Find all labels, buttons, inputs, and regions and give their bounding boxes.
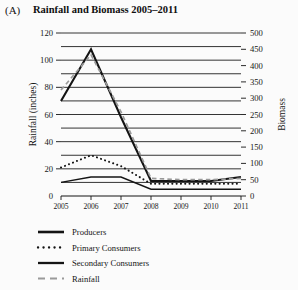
left-tick-label: 40 [44,137,53,147]
x-tick-label: 2008 [143,202,158,211]
x-axis-tick-labels: 2005200620072008200920102011 [53,202,248,211]
right-tick-label: 250 [250,110,263,120]
legend-item: Secondary Consumers [38,258,150,268]
right-tick-label: 350 [250,77,263,87]
right-tick-label: 0 [250,191,254,201]
legend-item: Producers [38,227,107,237]
series-line-producers [61,49,241,181]
legend-item: Rainfall [38,274,100,284]
x-tick-label: 2006 [83,202,98,211]
left-axis-title: Rainfall (inches) [28,83,39,147]
left-axis-tick-labels: 020406080100120 [40,28,53,201]
right-tick-label: 50 [250,175,259,185]
x-tick-label: 2009 [173,202,188,211]
x-tick-label: 2011 [234,202,249,211]
x-tick-label: 2005 [53,202,68,211]
left-tick-label: 20 [44,164,53,174]
right-tick-label: 300 [250,93,263,103]
right-axis-title: Biomass [277,98,287,131]
tickmarks-group [56,33,246,200]
right-tick-label: 400 [250,61,263,71]
left-tick-label: 60 [44,110,53,120]
legend-label: Primary Consumers [72,243,141,253]
left-tick-label: 0 [49,191,53,201]
data-series-group [61,49,241,189]
right-tick-label: 150 [250,142,263,152]
right-tick-label: 500 [250,28,263,38]
right-tick-label: 200 [250,126,263,136]
figure-container: (A) Rainfall and Biomass 2005–2011 02040… [0,0,298,290]
legend-item: Primary Consumers [38,243,141,253]
right-tick-label: 450 [250,44,263,54]
right-axis-tick-labels: 050100150200250300350400450500 [250,28,263,201]
left-tick-label: 100 [40,55,53,65]
right-tick-label: 100 [250,158,263,168]
chart-plot: 020406080100120 050100150200250300350400… [0,0,298,290]
legend-label: Secondary Consumers [72,258,150,268]
x-tick-label: 2010 [203,202,218,211]
legend: ProducersPrimary ConsumersSecondary Cons… [38,227,150,284]
left-tick-label: 80 [44,82,53,92]
left-tick-label: 120 [40,28,53,38]
legend-label: Producers [72,227,107,237]
x-tick-label: 2007 [113,202,128,211]
legend-label: Rainfall [72,274,100,284]
